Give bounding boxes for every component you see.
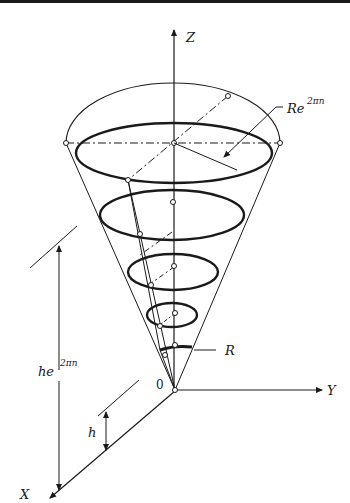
top-radius-leader bbox=[174, 107, 283, 170]
z-axis-label: Z bbox=[185, 30, 196, 45]
top-radius-exponent: 2πn bbox=[306, 96, 325, 106]
diagram-frame: Z Y X 0 Re 2πn R he 2πn h bbox=[0, 0, 350, 503]
top-radius-label: Re bbox=[286, 101, 305, 116]
height-total-exponent: 2πn bbox=[59, 358, 78, 368]
x-axis-label: X bbox=[19, 487, 30, 502]
height-total-label: he bbox=[38, 364, 54, 379]
x-axis bbox=[50, 391, 175, 498]
cone-spiral-diagram: Z Y X 0 Re 2πn R he 2πn h bbox=[0, 0, 350, 503]
base-radius-label: R bbox=[224, 343, 235, 358]
y-axis-label: Y bbox=[327, 383, 337, 398]
origin-label: 0 bbox=[156, 378, 164, 392]
height-step-label: h bbox=[88, 425, 96, 440]
